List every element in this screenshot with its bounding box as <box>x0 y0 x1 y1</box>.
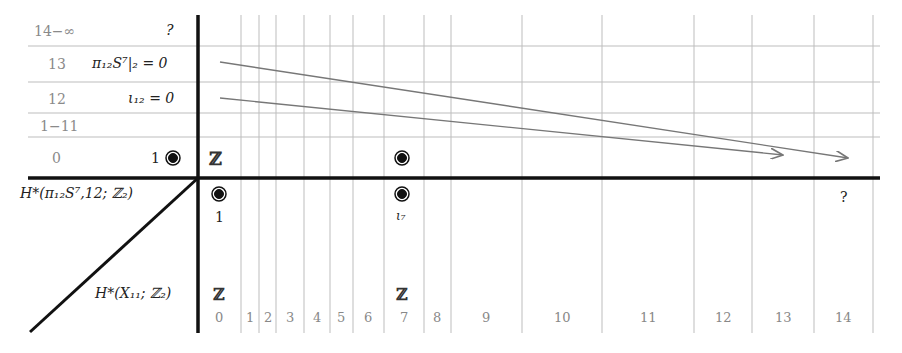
row-degree-label: 0 <box>52 151 61 165</box>
column-number: 7 <box>400 311 408 324</box>
row-degree-label: 12 <box>48 92 66 106</box>
z-entry: ℤ <box>213 287 225 303</box>
horizontal-axis-label: H*(X₁₁; ℤ₂) <box>95 286 171 300</box>
vertical-axis-label: H*(π₁₂S⁷,12; ℤ₂) <box>20 186 133 200</box>
column-number: 2 <box>264 311 272 324</box>
column-number: 10 <box>554 311 571 324</box>
column-number: 13 <box>775 311 792 324</box>
row-degree-label: 14−∞ <box>34 24 75 38</box>
column-number: 1 <box>246 311 254 324</box>
column-number: 0 <box>215 311 223 324</box>
row-degree-label: 1−11 <box>40 119 78 133</box>
z-entry: ℤ <box>396 287 408 303</box>
column-number: 9 <box>482 311 490 324</box>
row-entry: ι₁₂ = 0 <box>128 91 174 105</box>
row-entry: 1 <box>151 151 160 165</box>
row-entry: ? <box>166 23 174 37</box>
generator-label: 1 <box>215 210 224 224</box>
column-number: 5 <box>337 311 345 324</box>
generator-label: ι₇ <box>396 210 406 222</box>
column-number: 12 <box>715 311 732 324</box>
column-number: 11 <box>640 311 657 324</box>
column-number: 4 <box>313 311 321 324</box>
differential-arrow <box>220 62 848 158</box>
column-number: 6 <box>364 311 372 324</box>
dot-icon <box>166 151 409 201</box>
column-number: 14 <box>835 311 852 324</box>
unknown-entry: ? <box>840 190 848 204</box>
z-entry: ℤ <box>209 150 222 168</box>
diagonal-divider <box>30 178 198 332</box>
row-degree-label: 13 <box>48 57 66 71</box>
spectral-sequence-diagram: 14−∞ 13 12 1−11 0 ? π₁₂S⁷|₂ = 0 ι₁₂ = 0 … <box>0 0 902 353</box>
column-number: 3 <box>286 311 294 324</box>
column-number: 8 <box>433 311 441 324</box>
row-entry: π₁₂S⁷|₂ = 0 <box>92 56 168 70</box>
